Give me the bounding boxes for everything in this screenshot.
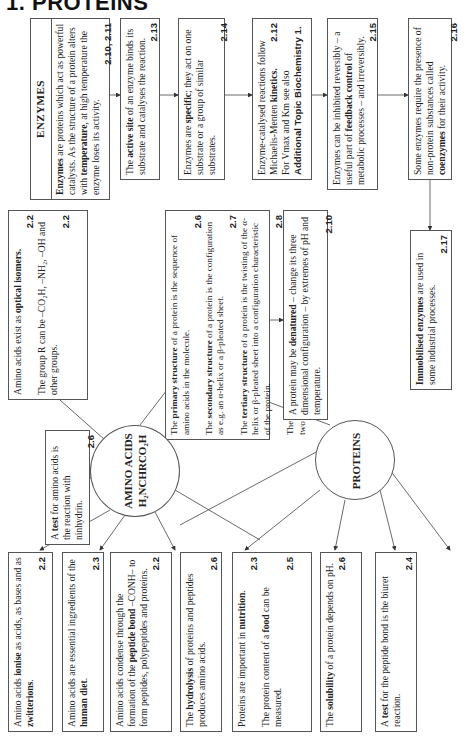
solubility-box: The solubility of a protein depends on p… [320, 552, 362, 732]
enzymes-header: ENZYMES [31, 19, 52, 199]
specific-box: Enzymes are specific; they act on one su… [178, 18, 225, 180]
peptide-bond-box: Amino acids condense through the formati… [110, 552, 172, 732]
kinetics-box: Enzyme-catalysed reactions follow Michae… [252, 18, 312, 180]
optical-isomers-box: Amino acids exist as optical isomers. 2.… [8, 210, 88, 400]
proteins-circle: PROTEINS [315, 420, 395, 500]
amino-acids-circle: AMINO ACIDS H₂NCHRCO₂H [90, 425, 180, 517]
inhibition-box: Enzymes can be inhibited reversibly – a … [327, 18, 378, 190]
nutrition-box: Proteins are important in nutrition. 2.3… [232, 552, 312, 732]
denatured-box: A protein may be denatured – change its … [283, 210, 328, 420]
biuret-test-box: A test for the peptide bond is the biure… [375, 552, 417, 732]
hydrolysis-box: The hydrolysis of proteins and peptides … [180, 552, 222, 732]
enzymes-header-text: ENZYMES [34, 19, 46, 199]
enzymes-intro: Enzymes are proteins which act as powerf… [51, 19, 117, 199]
protein-structure-box: The primary structure of a protein is th… [165, 210, 270, 440]
human-diet-box: Amino acids are essential ingredients of… [62, 552, 104, 732]
enzymes-box: ENZYMES Enzymes are proteins which act a… [30, 18, 110, 200]
active-site-box: The active site of an enzyme binds its s… [120, 18, 160, 180]
immobilised-box: Immobilised enzymes are used in some ind… [410, 230, 452, 390]
amino-acid-test-box: A test for amino acids is the reaction w… [45, 430, 90, 545]
ionise-box: Amino acids ionise as acids, as bases an… [8, 552, 53, 732]
coenzymes-box: Some enzymes require the presence of non… [408, 18, 452, 180]
